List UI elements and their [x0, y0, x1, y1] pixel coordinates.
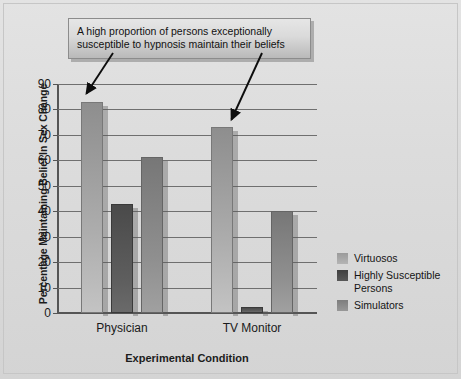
legend-label: Simulators — [354, 299, 404, 311]
bar-tv-monitor-highly-susceptible-persons — [241, 307, 263, 313]
bar-tv-monitor-virtuosos — [211, 127, 233, 313]
bar-shadow — [133, 208, 138, 316]
y-tick-label: 50 — [38, 179, 51, 193]
x-tick-label: Physician — [96, 321, 147, 335]
bar-body — [211, 127, 233, 313]
legend-label: Highly Susceptible Persons — [354, 269, 457, 294]
annotation-callout: A high proportion of persons exceptional… — [68, 18, 311, 59]
legend-item: Virtuosos — [337, 252, 457, 264]
bars-layer — [57, 84, 317, 313]
legend-swatch-icon — [337, 300, 348, 311]
bar-physician-virtuosos — [81, 102, 103, 313]
y-tick-label: 70 — [38, 128, 51, 142]
bar-body — [81, 102, 103, 313]
bar-shadow — [263, 311, 268, 316]
legend-swatch-icon — [337, 253, 348, 264]
legend-item: Simulators — [337, 299, 457, 311]
y-tick-label: 30 — [38, 230, 51, 244]
legend-item: Highly Susceptible Persons — [337, 269, 457, 294]
y-tick-label: 20 — [38, 255, 51, 269]
bar-body — [111, 204, 133, 313]
annotation-callout-line-2: susceptible to hypnosis maintain their b… — [77, 38, 302, 51]
bar-shadow — [233, 131, 238, 316]
legend-label: Virtuosos — [354, 252, 398, 264]
x-axis-title: Experimental Condition — [57, 352, 317, 364]
y-tick-label: 60 — [38, 153, 51, 167]
legend-swatch-icon — [337, 270, 348, 281]
annotation-callout-line-1: A high proportion of persons exceptional… — [77, 25, 302, 38]
y-tick-label: 0 — [44, 306, 51, 320]
y-tick-label: 10 — [38, 281, 51, 295]
bar-shadow — [163, 161, 168, 316]
y-tick-mark — [53, 313, 58, 314]
chart-figure: Percentage Maintaining Belief In Sex Cha… — [0, 0, 461, 379]
bar-body — [141, 157, 163, 313]
plot-area: 0102030405060708090 PhysicianTV Monitor — [57, 84, 317, 313]
chart-legend: VirtuososHighly Susceptible PersonsSimul… — [337, 252, 457, 317]
bar-body — [241, 307, 263, 313]
bar-tv-monitor-simulators — [271, 211, 293, 313]
y-tick-label: 40 — [38, 204, 51, 218]
bar-body — [271, 211, 293, 313]
bar-shadow — [103, 106, 108, 316]
bar-physician-highly-susceptible-persons — [111, 204, 133, 313]
bar-physician-simulators — [141, 157, 163, 313]
bar-shadow — [293, 215, 298, 316]
y-tick-label: 80 — [38, 102, 51, 116]
y-tick-label: 90 — [38, 77, 51, 91]
x-tick-label: TV Monitor — [223, 321, 282, 335]
